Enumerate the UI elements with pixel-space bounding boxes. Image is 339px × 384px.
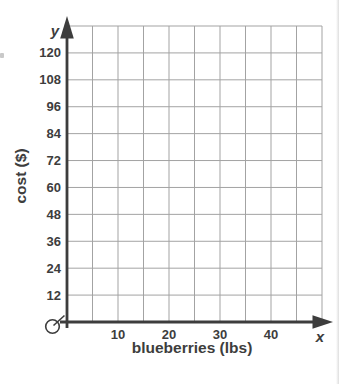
y-axis-title: cost ($) (12, 148, 30, 203)
worksheet-graph: 122436486072849610812010203040 y x cost … (0, 0, 339, 384)
y-tick-label-72: 72 (47, 153, 61, 168)
x-axis-letter: x (316, 328, 324, 345)
y-tick-label-60: 60 (47, 180, 61, 195)
x-axis-title: blueberries (lbs) (132, 339, 253, 357)
x-tick-label-40: 40 (264, 327, 278, 342)
x-tick-label-10: 10 (111, 327, 125, 342)
y-tick-label-120: 120 (39, 45, 61, 60)
y-tick-label-12: 12 (47, 288, 61, 303)
y-tick-label-96: 96 (47, 99, 61, 114)
y-axis-letter: y (51, 22, 59, 39)
scan-artifact-mark (0, 53, 4, 58)
y-tick-label-36: 36 (47, 234, 61, 249)
y-tick-label-24: 24 (47, 261, 62, 276)
y-tick-label-108: 108 (39, 72, 61, 87)
y-axis-arrow-icon (60, 16, 74, 39)
y-tick-label-48: 48 (47, 207, 61, 222)
empty-coordinate-grid: 122436486072849610812010203040 (0, 0, 339, 384)
y-tick-label-84: 84 (47, 126, 62, 141)
